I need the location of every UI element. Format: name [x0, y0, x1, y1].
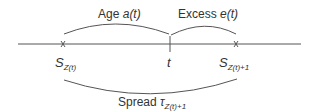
s-right-subscript: Z(t)+1	[228, 63, 250, 72]
s-right-main: S	[219, 55, 228, 70]
age-brace	[64, 24, 169, 34]
renewal-timeline-diagram: Age a(t) Excess e(t) SZ(t) t SZ(t)+1 Spr…	[0, 0, 316, 112]
excess-label: Excess e(t)	[178, 8, 238, 20]
s-left-label: SZ(t)	[55, 56, 76, 69]
spread-label: Spread τZ(t)+1	[118, 96, 186, 108]
s-right-label: SZ(t)+1	[219, 56, 249, 69]
excess-word: Excess	[178, 7, 217, 21]
spread-subscript: Z(t)+1	[165, 102, 187, 111]
excess-brace	[171, 26, 236, 35]
t-label: t	[167, 56, 171, 69]
age-symbol: a(t)	[123, 7, 141, 21]
s-left-main: S	[55, 55, 64, 70]
excess-symbol: e(t)	[220, 7, 238, 21]
s-left-subscript: Z(t)	[64, 63, 76, 72]
spread-brace	[64, 79, 237, 94]
age-word: Age	[98, 7, 119, 21]
spread-symbol: τ	[160, 95, 165, 109]
age-label: Age a(t)	[98, 8, 141, 20]
spread-word: Spread	[118, 95, 157, 109]
